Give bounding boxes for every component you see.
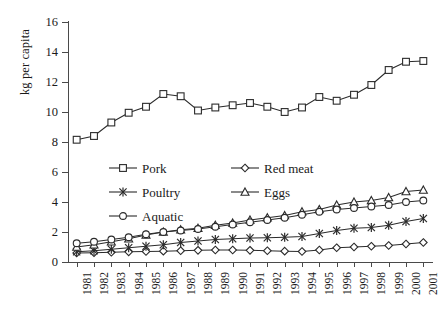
data-point-diamond xyxy=(402,240,410,248)
data-point-square xyxy=(420,58,427,65)
data-point-diamond xyxy=(281,247,289,255)
data-point-circle xyxy=(420,197,427,204)
data-point-square xyxy=(91,133,98,140)
data-point-square xyxy=(281,109,288,116)
legend-marker-circle xyxy=(108,210,138,222)
data-point-triangle xyxy=(419,186,427,193)
legend-item-label: Aquatic xyxy=(142,210,183,223)
data-point-circle xyxy=(351,205,358,212)
legend-item-poultry[interactable]: Poultry xyxy=(108,186,230,199)
data-point-square xyxy=(73,136,80,143)
data-point-circle xyxy=(160,229,167,236)
data-point-diamond xyxy=(316,246,324,254)
data-point-circle xyxy=(403,199,410,206)
data-point-diamond xyxy=(298,248,306,256)
data-point-square xyxy=(177,93,184,100)
data-point-square xyxy=(385,67,392,74)
legend-item-eggs[interactable]: Eggs xyxy=(230,186,338,199)
data-point-diamond xyxy=(333,244,341,252)
data-point-circle xyxy=(177,227,184,234)
legend-item-pork[interactable]: Pork xyxy=(108,162,230,175)
legend-item-label: Eggs xyxy=(264,186,290,199)
series-pork xyxy=(73,58,426,144)
legend-item-label: Poultry xyxy=(142,186,180,199)
legend-marker-triangle xyxy=(230,186,260,198)
data-point-circle xyxy=(73,240,80,247)
data-point-square xyxy=(229,102,236,109)
data-point-diamond xyxy=(368,242,376,250)
legend-marker-diamond xyxy=(230,162,260,174)
data-point-square xyxy=(264,103,271,110)
data-point-circle xyxy=(385,202,392,209)
data-point-circle xyxy=(108,236,115,243)
legend-marker-square xyxy=(108,162,138,174)
data-point-square xyxy=(403,58,410,65)
data-point-diamond xyxy=(246,247,254,255)
data-point-diamond xyxy=(420,239,428,247)
data-point-square xyxy=(299,104,306,111)
data-point-square xyxy=(212,104,219,111)
data-point-diamond xyxy=(212,246,220,254)
data-point-square xyxy=(195,107,202,114)
data-point-diamond xyxy=(194,247,202,255)
legend-item-aquatic[interactable]: Aquatic xyxy=(108,210,230,223)
data-point-square xyxy=(125,109,132,116)
data-point-square xyxy=(351,91,358,98)
data-point-square xyxy=(160,91,167,98)
data-point-square xyxy=(316,94,323,101)
data-point-square xyxy=(247,100,254,107)
data-point-square xyxy=(368,82,375,89)
data-point-circle xyxy=(125,234,132,241)
legend-marker-star xyxy=(108,186,138,198)
chart-figure: kg per capita 0246810121416 198119821983… xyxy=(0,0,445,324)
data-point-circle xyxy=(143,231,150,238)
data-point-circle xyxy=(368,203,375,210)
data-point-square xyxy=(120,165,127,172)
data-point-diamond xyxy=(241,164,249,172)
data-point-square xyxy=(333,97,340,104)
data-point-square xyxy=(143,103,150,110)
data-point-circle xyxy=(91,238,98,245)
data-point-circle xyxy=(120,213,127,220)
data-point-diamond xyxy=(177,247,185,255)
chart-legend: PorkRed meatPoultryEggsAquatic xyxy=(108,156,338,228)
legend-item-red-meat[interactable]: Red meat xyxy=(230,162,338,175)
data-point-square xyxy=(108,119,115,126)
legend-item-label: Red meat xyxy=(264,162,313,175)
data-point-diamond xyxy=(264,247,272,255)
data-point-diamond xyxy=(385,242,393,250)
data-point-diamond xyxy=(229,246,237,254)
data-point-diamond xyxy=(350,243,358,251)
legend-item-label: Pork xyxy=(142,162,167,175)
